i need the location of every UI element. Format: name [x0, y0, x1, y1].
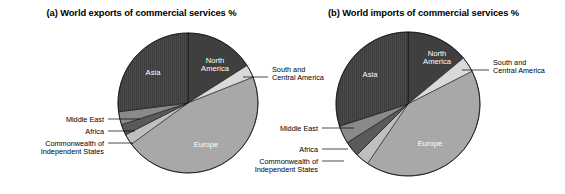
callout-label-middle-east: Middle East — [66, 115, 104, 124]
slice-label-asia: Asia — [363, 70, 379, 79]
figure-two-pie-charts: (a) World exports of commercial services… — [0, 0, 565, 194]
callout-label-africa: Africa — [299, 145, 319, 154]
callout-label-south-and-central-america: Central America — [493, 66, 546, 75]
slice-label-asia: Asia — [146, 68, 162, 77]
panel-imports: (b) World imports of commercial services… — [282, 0, 565, 194]
slice-label-europe: Europe — [194, 140, 219, 149]
pie-slices — [336, 32, 480, 176]
pie-slices — [118, 33, 258, 173]
panel-exports: (a) World exports of commercial services… — [0, 0, 283, 194]
callout-label-middle-east: Middle East — [280, 124, 318, 133]
slice-label-north-america-2: America — [201, 64, 230, 73]
callout-label-commonwealth-of-independent-states: Independent States — [255, 165, 319, 174]
slice-label-north-america-2: America — [423, 57, 452, 66]
pie-chart-exports: AsiaNorthAmericaEuropeSouth andCentral A… — [0, 0, 283, 194]
pie-chart-imports: AsiaNorthAmericaEuropeSouth andCentral A… — [282, 0, 565, 194]
callout-label-africa: Africa — [85, 127, 105, 136]
slice-label-europe: Europe — [418, 139, 443, 148]
callout-label-commonwealth-of-independent-states: Independent States — [41, 147, 105, 156]
